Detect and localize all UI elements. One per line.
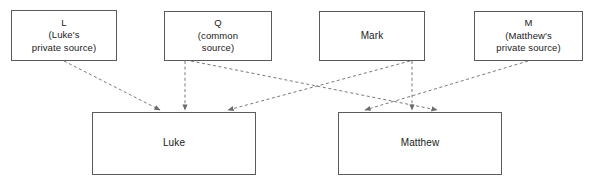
gospel-box-luke-label: Luke bbox=[163, 137, 185, 150]
edge-M-to-Matthew bbox=[365, 61, 528, 110]
source-box-q-label: Q (common source) bbox=[198, 17, 238, 55]
source-box-q[interactable]: Q (common source) bbox=[164, 11, 272, 61]
edge-Mark-to-Luke bbox=[228, 61, 410, 110]
gospel-box-matthew[interactable]: Matthew bbox=[338, 112, 502, 175]
source-box-mark[interactable]: Mark bbox=[319, 11, 425, 61]
source-box-l[interactable]: L (Luke's private source) bbox=[11, 10, 117, 61]
edge-L-to-Luke bbox=[64, 61, 160, 110]
source-box-l-label: L (Luke's private source) bbox=[32, 17, 96, 55]
edge-Q-to-Matthew bbox=[191, 61, 437, 110]
source-hypothesis-diagram: L (Luke's private source) Q (common sour… bbox=[0, 0, 592, 186]
source-box-m-label: M (Matthew's private source) bbox=[496, 17, 560, 55]
edges-group bbox=[64, 61, 528, 110]
gospel-box-luke[interactable]: Luke bbox=[92, 112, 256, 175]
source-box-mark-label: Mark bbox=[361, 30, 384, 43]
gospel-box-matthew-label: Matthew bbox=[401, 137, 440, 150]
source-box-m[interactable]: M (Matthew's private source) bbox=[474, 11, 583, 61]
